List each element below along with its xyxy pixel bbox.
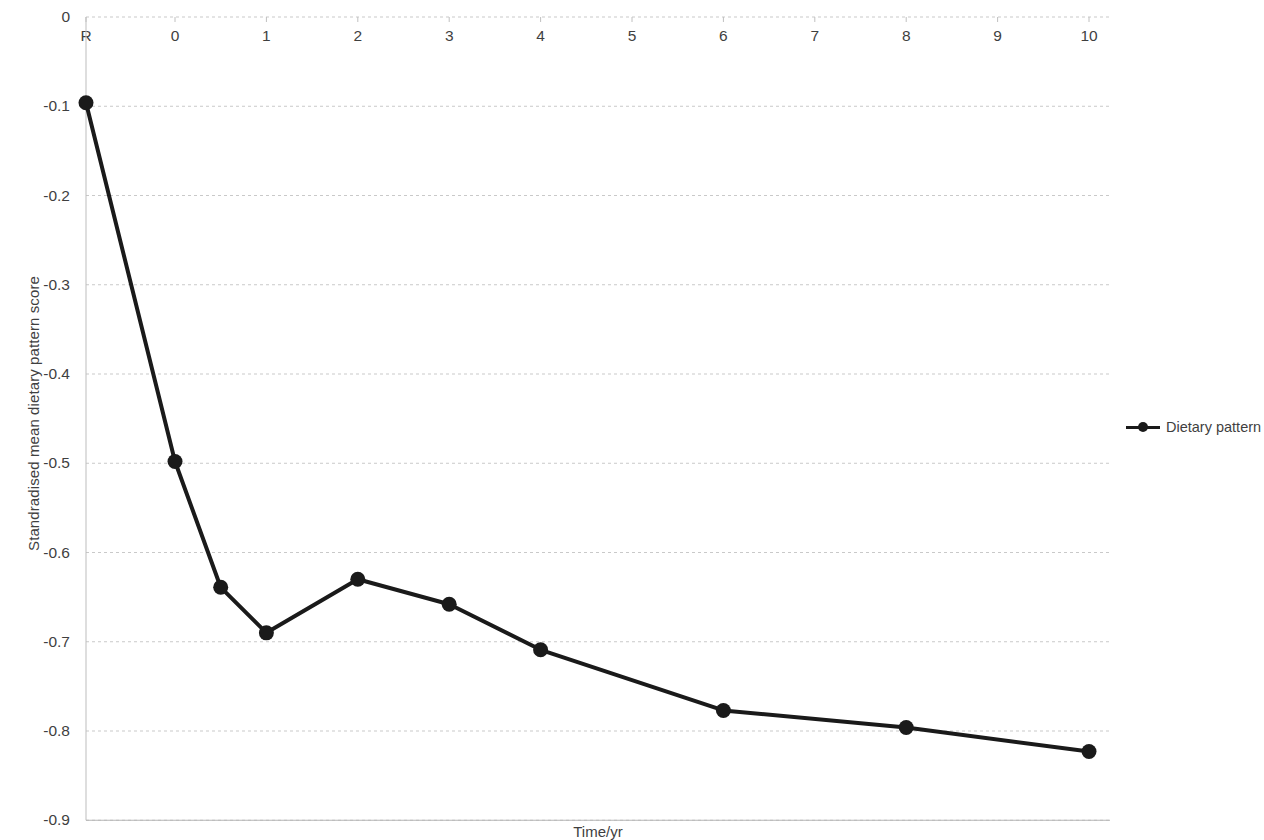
data-point-marker [350, 572, 365, 587]
gridlines [86, 17, 1110, 820]
data-point-marker [168, 454, 183, 469]
data-series-layer [79, 95, 1097, 759]
axis-lines [86, 17, 1110, 820]
data-point-marker [1082, 744, 1097, 759]
line-chart: Standradised mean dietary pattern score … [0, 0, 1264, 840]
legend-marker-icon [1126, 421, 1160, 433]
data-point-marker [442, 597, 457, 612]
legend-item-label: Dietary pattern [1166, 419, 1261, 435]
data-point-marker [716, 703, 731, 718]
chart-legend: Dietary pattern [1126, 419, 1261, 435]
data-point-marker [259, 625, 274, 640]
data-point-marker [899, 720, 914, 735]
data-point-marker [533, 642, 548, 657]
data-point-marker [213, 580, 228, 595]
data-point-marker [79, 95, 94, 110]
plot-area [0, 0, 1264, 840]
series-line [86, 103, 1089, 752]
